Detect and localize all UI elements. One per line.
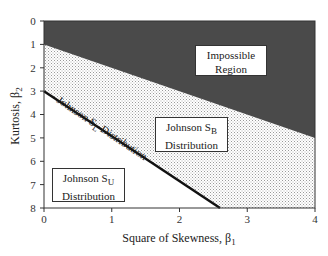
y-axis-title: Kurtosis, β2 [8,87,24,144]
y-axis [40,21,44,208]
svg-text:0: 0 [41,213,47,225]
svg-text:6: 6 [30,155,36,167]
impossible-region-label: Impossible Region [195,45,267,76]
sb-label-line2: Distribution [156,138,227,152]
svg-text:0: 0 [30,15,36,27]
x-axis-title: Square of Skewness, β1 [122,231,235,247]
su-label-line2: Distribution [53,189,124,203]
svg-text:8: 8 [30,202,36,214]
svg-text:4: 4 [30,108,36,120]
x-axis [44,208,315,212]
sb-region-label: Johnson SB Distribution [155,117,228,152]
svg-text:2: 2 [177,213,183,225]
svg-text:1: 1 [30,38,36,50]
su-label-line1: Johnson SU [53,171,124,189]
su-region-label: Johnson SU Distribution [52,168,125,202]
svg-text:5: 5 [30,132,36,144]
y-tick-labels: 0 1 2 3 4 5 6 7 8 [30,15,36,214]
svg-text:4: 4 [312,213,318,225]
x-tick-labels: 0 1 2 3 4 [41,213,318,225]
svg-text:2: 2 [30,62,36,74]
svg-text:3: 3 [245,213,251,225]
impossible-label-line1: Impossible [196,48,266,62]
sb-label-line1: Johnson SB [156,120,227,138]
svg-text:7: 7 [30,179,36,191]
svg-text:3: 3 [30,85,36,97]
impossible-label-line2: Region [196,62,266,76]
svg-text:1: 1 [109,213,115,225]
